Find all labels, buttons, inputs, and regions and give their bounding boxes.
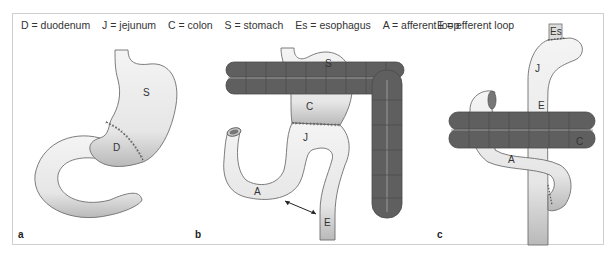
label-duodenum-a: D	[113, 142, 120, 153]
panel-b-billroth-ii: S C J A E	[224, 48, 404, 240]
label-esophagus-c: Es	[550, 26, 562, 37]
label-colon-b: C	[306, 101, 313, 112]
panel-letter-b: b	[195, 229, 201, 240]
panel-letter-c: c	[437, 229, 443, 240]
panel-c-roux-en-y: Es J E C A	[449, 24, 595, 245]
diagram-artwork: S D S C J A	[0, 0, 615, 253]
panel-a-stomach-duodenum: S D	[35, 50, 177, 218]
label-stomach-b: S	[325, 58, 332, 69]
label-afferent-c: A	[508, 154, 515, 165]
label-colon-c: C	[576, 136, 583, 147]
label-jejunum-c: J	[535, 63, 540, 74]
label-afferent-b: A	[254, 186, 261, 197]
label-stomach-a: S	[143, 87, 150, 98]
label-efferent-c: E	[538, 100, 545, 111]
colon-c	[449, 112, 595, 148]
label-efferent-b: E	[324, 217, 331, 228]
panel-letter-a: a	[18, 229, 24, 240]
label-jejunum-b: J	[303, 132, 308, 143]
